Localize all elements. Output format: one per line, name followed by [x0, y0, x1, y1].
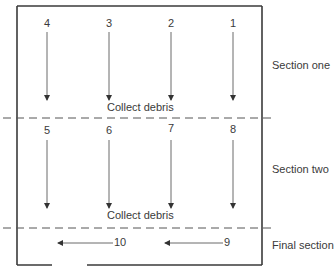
- frame: [17, 6, 262, 265]
- column-number-5: 5: [44, 125, 50, 136]
- column-number-6: 6: [106, 125, 112, 136]
- section-label-final: Final section: [272, 240, 334, 251]
- collect-debris-label-2: Collect debris: [107, 210, 174, 221]
- section-label-one: Section one: [272, 60, 330, 71]
- column-number-3: 3: [106, 18, 112, 29]
- column-number-4: 4: [44, 18, 50, 29]
- diagram-canvas: [0, 0, 335, 270]
- column-number-8: 8: [230, 124, 236, 135]
- section-two-arrows: [47, 140, 233, 208]
- section-label-two: Section two: [272, 164, 329, 175]
- column-number-7: 7: [168, 123, 174, 134]
- collect-debris-label-1: Collect debris: [107, 102, 174, 113]
- column-number-1: 1: [230, 18, 236, 29]
- arrow-number-10: 10: [114, 237, 126, 248]
- column-number-2: 2: [168, 18, 174, 29]
- arrow-number-9: 9: [224, 237, 230, 248]
- section-one-arrows: [47, 32, 233, 100]
